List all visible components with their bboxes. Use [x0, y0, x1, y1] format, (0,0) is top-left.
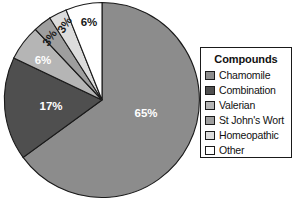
legend-swatch-icon-homeopathic: [205, 131, 215, 140]
legend-item-st-johns-wort[interactable]: St John's Wort: [201, 113, 291, 128]
pie-label-other: 6%: [81, 16, 98, 28]
legend-item-chamomile[interactable]: Chamomile: [201, 68, 291, 83]
legend-swatch-icon-st-johns-wort: [205, 116, 215, 125]
pie-label-combination: 17%: [39, 100, 62, 112]
pie-label-valerian: 6%: [35, 54, 52, 66]
legend-label-valerian: Valerian: [219, 100, 255, 111]
legend-swatch-icon-valerian: [205, 101, 215, 110]
legend-item-other[interactable]: Other: [201, 143, 291, 158]
legend-swatch-icon-combination: [205, 86, 215, 95]
legend-swatch-icon-chamomile: [205, 71, 215, 80]
legend-item-valerian[interactable]: Valerian: [201, 98, 291, 113]
legend-label-homeopathic: Homeopathic: [219, 130, 279, 141]
legend: Compounds Chamomile Combination Valerian…: [200, 47, 292, 158]
legend-label-st-johns-wort: St John's Wort: [219, 115, 284, 126]
pie-chart-figure: 65% 17% 6% 3% 3% 6% Compounds Chamomile …: [0, 0, 301, 201]
legend-label-chamomile: Chamomile: [219, 70, 270, 81]
pie-label-chamomile: 65%: [134, 107, 157, 119]
legend-swatch-icon-other: [205, 146, 215, 155]
legend-item-combination[interactable]: Combination: [201, 83, 291, 98]
legend-label-combination: Combination: [219, 85, 276, 96]
legend-item-homeopathic[interactable]: Homeopathic: [201, 128, 291, 143]
legend-title: Compounds: [201, 53, 291, 65]
legend-label-other: Other: [219, 145, 244, 156]
